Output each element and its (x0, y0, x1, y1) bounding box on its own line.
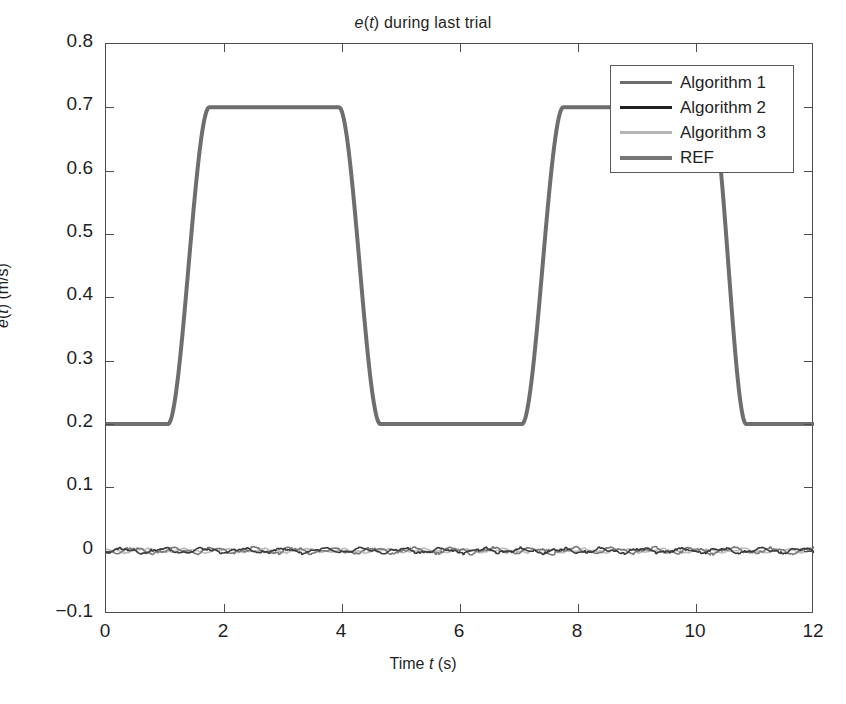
x-tick-label: 8 (572, 620, 583, 642)
x-tick-label: 2 (218, 620, 229, 642)
x-tick-mark (342, 604, 343, 612)
legend-label: Algorithm 3 (680, 124, 766, 141)
y-tick-mark (106, 551, 114, 552)
y-tick-label: 0.3 (67, 347, 93, 369)
x-tick-label: 12 (802, 620, 823, 642)
y-tick-mark (804, 551, 812, 552)
chart-legend: Algorithm 1Algorithm 2Algorithm 3REF (610, 65, 794, 173)
y-tick-mark (804, 487, 812, 488)
y-tick-mark (106, 424, 114, 425)
y-tick-mark (804, 424, 812, 425)
y-tick-mark (804, 171, 812, 172)
legend-entry[interactable]: Algorithm 3 (611, 120, 793, 145)
x-tick-mark (696, 44, 697, 52)
chart-title: e(t) during last trial (0, 14, 846, 32)
y-tick-mark (106, 297, 114, 298)
y-tick-label: 0.2 (67, 410, 93, 432)
y-tick-mark (106, 487, 114, 488)
y-tick-label: 0 (82, 537, 93, 559)
x-axis-title: Time t (s) (0, 655, 846, 673)
y-tick-mark (106, 234, 114, 235)
chart-figure: e(t) during last trial 0.80.70.60.50.40.… (0, 0, 846, 704)
y-tick-mark (804, 297, 812, 298)
y-tick-label: 0.7 (67, 93, 93, 115)
x-tick-mark (578, 604, 579, 612)
y-tick-label: 0.5 (67, 220, 93, 242)
legend-entry[interactable]: Algorithm 1 (611, 70, 793, 95)
x-tick-mark (696, 604, 697, 612)
x-tick-label: 10 (684, 620, 705, 642)
y-tick-label: 0.4 (67, 283, 93, 305)
legend-label: Algorithm 1 (680, 74, 766, 91)
legend-entry[interactable]: Algorithm 2 (611, 95, 793, 120)
x-tick-mark (224, 44, 225, 52)
y-tick-mark (106, 361, 114, 362)
x-tick-mark (342, 44, 343, 52)
x-tick-mark (578, 44, 579, 52)
y-axis-title: e(t) (m/s) (0, 263, 12, 328)
legend-swatch-line-icon (620, 131, 672, 134)
y-tick-mark (106, 171, 114, 172)
x-tick-mark (224, 604, 225, 612)
y-tick-label: 0.6 (67, 157, 93, 179)
y-tick-mark (106, 107, 114, 108)
legend-swatch-line-icon (620, 81, 672, 84)
legend-swatch-line-icon (620, 156, 672, 160)
y-tick-mark (804, 361, 812, 362)
legend-label: Algorithm 2 (680, 99, 766, 116)
y-tick-label: 0.1 (67, 473, 93, 495)
legend-entry[interactable]: REF (611, 145, 793, 170)
x-tick-mark (460, 604, 461, 612)
y-tick-mark (804, 107, 812, 108)
x-tick-mark (460, 44, 461, 52)
legend-label: REF (680, 149, 714, 166)
y-tick-label: 0.8 (67, 30, 93, 52)
x-tick-label: 0 (100, 620, 111, 642)
y-tick-mark (804, 234, 812, 235)
x-tick-label: 6 (454, 620, 465, 642)
y-tick-label: −0.1 (55, 600, 93, 622)
legend-swatch-line-icon (620, 106, 672, 109)
x-tick-label: 4 (336, 620, 347, 642)
